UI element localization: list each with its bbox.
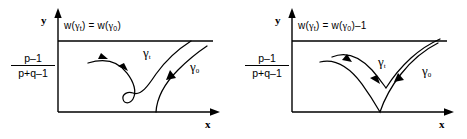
y-axis-arrowhead bbox=[288, 8, 295, 18]
y-value-fraction: p–1 p+q–1 bbox=[245, 52, 289, 79]
curve-label-gamma-0-sub: 0 bbox=[428, 71, 432, 79]
equation-lhs-sub: t bbox=[314, 25, 316, 32]
y-axis-arrowhead bbox=[54, 8, 61, 18]
panel-winding-equal: y x w(γt) = w(γ0) p–1 p+q–1 γt γ0 bbox=[0, 0, 233, 139]
curve-label-gamma-0-symbol: γ bbox=[190, 59, 196, 74]
curve-label-gamma-t-symbol: γ bbox=[143, 45, 149, 60]
figure-container: y x w(γt) = w(γ0) p–1 p+q–1 γt γ0 bbox=[0, 0, 467, 139]
y-value-numerator: p–1 bbox=[11, 52, 55, 65]
curve-label-gamma-0-sub: 0 bbox=[196, 67, 200, 75]
curve-label-gamma-0: γ0 bbox=[422, 64, 431, 77]
x-axis-arrowhead bbox=[210, 108, 220, 115]
panel-winding-minus-one: y x w(γt) = w(γ0)–1 p–1 p+q–1 γt γ0 bbox=[234, 0, 467, 139]
equation-lhs-close: ) bbox=[82, 20, 86, 31]
curve-gamma-0 bbox=[156, 46, 207, 112]
equation-rhs-w: w( bbox=[98, 20, 109, 31]
equation-lhs-w: w( bbox=[64, 20, 75, 31]
y-value-numerator: p–1 bbox=[245, 52, 289, 65]
x-axis-label: x bbox=[205, 119, 211, 130]
curve-label-gamma-t-symbol: γ bbox=[378, 54, 384, 69]
equation-lhs-w: w( bbox=[298, 20, 309, 31]
curve-gamma-t-arrow-2 bbox=[370, 75, 380, 84]
equation-rhs-sub: 0 bbox=[113, 25, 117, 32]
y-value-fraction: p–1 p+q–1 bbox=[11, 52, 55, 79]
equation-rhs-sub: 0 bbox=[347, 25, 351, 32]
curve-label-gamma-t-sub: t bbox=[149, 53, 151, 61]
x-axis-label: x bbox=[439, 119, 445, 130]
equation-lhs-close: ) bbox=[316, 20, 320, 31]
curve-label-gamma-0-symbol: γ bbox=[422, 63, 428, 78]
equation-relation: = bbox=[88, 20, 94, 31]
equation-relation: = bbox=[322, 20, 328, 31]
curve-gamma-t-arrow-1 bbox=[98, 53, 108, 59]
y-value-denominator: p+q–1 bbox=[245, 65, 289, 79]
equation-winding: w(γt) = w(γ0)–1 bbox=[298, 21, 366, 32]
curve-label-gamma-t: γt bbox=[378, 55, 386, 68]
curve-gamma-0-arrow bbox=[166, 70, 176, 80]
x-axis-arrowhead bbox=[444, 108, 454, 115]
equation-lhs-sub: t bbox=[80, 25, 82, 32]
curve-gamma-t-arrow-2 bbox=[118, 63, 128, 71]
equation-rhs-close: ) bbox=[117, 20, 121, 31]
y-axis-label: y bbox=[41, 15, 47, 26]
equation-rhs-tail: –1 bbox=[355, 20, 367, 31]
equation-winding: w(γt) = w(γ0) bbox=[64, 21, 121, 32]
y-axis-label: y bbox=[275, 15, 281, 26]
y-value-denominator: p+q–1 bbox=[11, 65, 55, 79]
curve-label-gamma-t: γt bbox=[143, 46, 151, 59]
curve-label-gamma-t-sub: t bbox=[384, 62, 386, 70]
curve-label-gamma-0: γ0 bbox=[190, 60, 199, 73]
equation-rhs-w: w( bbox=[332, 20, 343, 31]
